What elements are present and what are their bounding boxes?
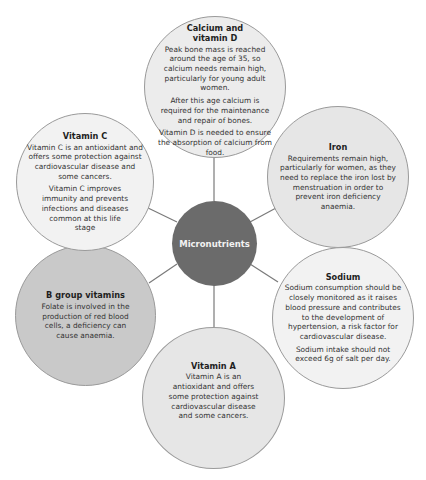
node-text: Requirements remain high, particularly f… (278, 154, 398, 212)
node-text: After this age calcium is required for t… (157, 96, 273, 125)
node-sodium: Sodium Sodium consumption should be clos… (272, 247, 414, 389)
node-title: Vitamin A (191, 361, 236, 372)
node-vitamin-a: Vitamin A Vitamin A is an antioxidant an… (142, 327, 285, 469)
node-text: Folate is involved in the production of … (34, 302, 137, 341)
connector-vitamin-c (146, 207, 177, 222)
node-text: Vitamin C improves immunity and prevents… (25, 184, 145, 233)
node-title: Vitamin C (63, 131, 107, 142)
node-title: Calcium and vitamin D (180, 23, 250, 44)
connector-iron (250, 208, 276, 222)
center-label: Micronutrients (179, 239, 250, 249)
node-text: Peak bone mass is reached around the age… (157, 45, 273, 94)
node-text: Vitamin D is needed to ensure the absorp… (157, 128, 273, 157)
connector-b-group (149, 264, 177, 283)
center-node-micronutrients: Micronutrients (172, 201, 257, 286)
node-title: B group vitamins (46, 290, 125, 301)
node-b-group-vitamins: B group vitamins Folate is involved in t… (15, 245, 156, 386)
node-title: Sodium (326, 272, 361, 283)
node-text: Vitamin A is an antioxidant and offers s… (165, 372, 262, 421)
node-vitamin-c: Vitamin C Vitamin C is an antioxidant an… (16, 113, 154, 251)
node-text: Sodium consumption should be closely mon… (283, 283, 403, 341)
node-calcium-vitamin-d: Calcium and vitamin D Peak bone mass is … (144, 16, 286, 158)
node-text: Vitamin C is an antioxidant and offers s… (25, 143, 145, 182)
node-text: Sodium intake should not exceed 6g of sa… (283, 345, 403, 364)
connector-sodium (250, 264, 278, 282)
node-iron: Iron Requirements remain high, particula… (267, 106, 409, 248)
node-title: Iron (329, 142, 348, 153)
